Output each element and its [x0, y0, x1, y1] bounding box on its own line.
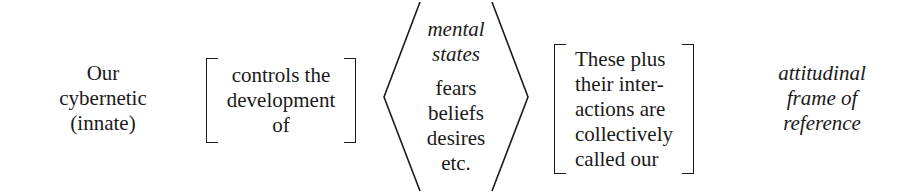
mental-text-block: mental states fears beliefs desires etc. [427, 17, 485, 176]
subject-text-block: Our cybernetic (innate) [59, 61, 146, 136]
group-controls: controls the development of [206, 58, 356, 143]
mental-line-1: fears [427, 76, 485, 101]
controls-line-3: of [227, 113, 335, 138]
controls-text-block: controls the development of [227, 63, 335, 138]
collective-line-1: These plus [575, 47, 673, 72]
subject-line-1: Our [59, 61, 146, 86]
angle-bracket-right-icon [491, 0, 529, 193]
mental-line-3: desires [427, 126, 485, 151]
subject-line-3: (innate) [59, 111, 146, 136]
frame-text-block: attitudinal frame of reference [778, 61, 866, 136]
collective-line-5: called our [575, 147, 673, 172]
controls-line-2: development [227, 88, 335, 113]
collective-text-block: These plus their inter- actions are coll… [575, 47, 673, 172]
collective-line-2: their inter- [575, 72, 673, 97]
frame-line-1: attitudinal [778, 61, 866, 86]
square-bracket-left-icon [206, 58, 218, 143]
diagram-canvas: Our cybernetic (innate) controls the dev… [0, 0, 911, 193]
group-subject: Our cybernetic (innate) [18, 58, 188, 138]
mental-line-4: etc. [427, 151, 485, 176]
square-bracket-left-icon [554, 44, 566, 174]
collective-line-3: actions are [575, 97, 673, 122]
controls-line-1: controls the [227, 63, 335, 88]
mental-head-line-2: states [427, 42, 485, 67]
frame-line-3: reference [778, 111, 866, 136]
group-collective: These plus their inter- actions are coll… [554, 44, 694, 174]
square-bracket-right-icon [682, 44, 694, 174]
frame-line-2: frame of [778, 86, 866, 111]
mental-head-line-1: mental [427, 17, 485, 42]
collective-line-4: collectively [575, 122, 673, 147]
mental-line-2: beliefs [427, 101, 485, 126]
group-frame-of-reference: attitudinal frame of reference [752, 58, 892, 138]
subject-line-2: cybernetic [59, 86, 146, 111]
angle-bracket-left-icon [383, 0, 421, 193]
group-mental-states: mental states fears beliefs desires etc. [380, 0, 532, 193]
square-bracket-right-icon [344, 58, 356, 143]
